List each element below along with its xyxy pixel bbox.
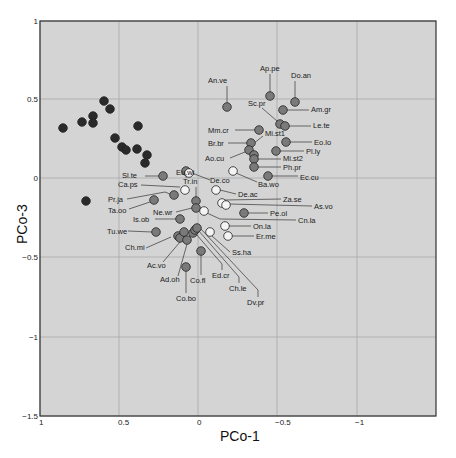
point-label: Ad.oh: [160, 275, 180, 284]
data-point-dark: [89, 119, 98, 128]
data-point-dark: [143, 151, 152, 160]
data-point-mid: [266, 92, 275, 101]
point-label: Mm.cr: [208, 126, 229, 135]
data-point-white: [181, 186, 190, 195]
point-label: Ed.cr: [212, 271, 230, 280]
pco-scatter-chart: 10.50−0.5−1 10.50−0.5−1−1.5 An.veAp.peDo…: [0, 0, 456, 458]
data-point-white: [212, 186, 221, 195]
data-point-mid: [223, 103, 232, 112]
data-point-dark: [141, 159, 150, 168]
point-label: Pe.ol: [270, 209, 287, 218]
point-label: Ec.cu: [300, 173, 319, 182]
point-label: Is.ob: [133, 215, 149, 224]
y-tick-label: 0: [34, 174, 39, 183]
point-label: Ch.le: [229, 284, 247, 293]
point-label: Tr.in: [183, 177, 197, 186]
data-point-mid: [240, 209, 249, 218]
plot-area: [40, 21, 436, 416]
data-point-dark: [78, 118, 87, 127]
point-label: Ss.ha: [232, 248, 252, 257]
point-label: Eu.wi: [176, 168, 195, 177]
point-label: De.co: [210, 176, 230, 185]
x-tick-label: 0: [197, 418, 202, 427]
data-point-dark: [122, 146, 131, 155]
data-point-mid: [183, 236, 192, 245]
point-label: Pl.ly: [306, 147, 320, 156]
x-axis-label: PCo-1: [220, 428, 260, 444]
x-tick-label: −1: [355, 418, 365, 427]
data-point-dark: [100, 97, 109, 106]
point-label: On.la: [253, 222, 272, 231]
y-tick-label: −1.5: [22, 412, 38, 421]
point-label: An.ve: [208, 76, 227, 85]
data-point-mid: [176, 215, 185, 224]
point-label: As.vo: [314, 202, 333, 211]
data-point-white: [206, 228, 215, 237]
point-label: Eo.lo: [314, 138, 331, 147]
point-label: Am.gr: [311, 105, 332, 114]
data-point-white: [200, 207, 209, 216]
data-point-mid: [250, 163, 259, 172]
point-label: Tu.we: [107, 227, 127, 236]
data-point-dark: [111, 134, 120, 143]
point-label: Dv.pr: [247, 298, 265, 307]
data-point-white: [224, 232, 233, 241]
y-tick-label: −0.5: [22, 253, 38, 262]
data-point-dark: [134, 122, 143, 131]
data-point-mid: [159, 172, 168, 181]
y-axis-label: PCo-3: [14, 204, 30, 244]
data-point-mid: [182, 263, 191, 272]
point-label: Sl.te: [122, 171, 137, 180]
data-point-white: [221, 222, 230, 231]
point-label: Ac.vo: [147, 261, 166, 270]
point-label: Co.fl: [190, 276, 206, 285]
data-point-mid: [255, 126, 264, 135]
point-label: Le.te: [313, 121, 330, 130]
x-tick-label: −0.5: [275, 418, 291, 427]
y-tick-label: −1: [29, 333, 39, 342]
data-point-mid: [180, 228, 189, 237]
point-label: Co.bo: [176, 294, 196, 303]
point-label: Br.br: [208, 139, 224, 148]
data-point-mid: [152, 228, 161, 237]
x-axis-ticks: 10.50−0.5−1: [39, 418, 365, 427]
point-label: Mi.st2: [283, 154, 303, 163]
data-point-mid: [192, 204, 201, 213]
data-point-mid: [272, 147, 281, 156]
point-label: Ne.wr: [153, 208, 173, 217]
data-point-mid: [197, 247, 206, 256]
data-point-mid: [193, 224, 202, 233]
point-label: Za.se: [283, 195, 302, 204]
y-tick-label: 0.5: [27, 95, 39, 104]
point-label: Pr.ja: [108, 195, 124, 204]
point-label: Do.an: [291, 71, 311, 80]
data-point-mid: [150, 196, 159, 205]
point-label: Mi.st1: [265, 129, 285, 138]
data-point-dark: [59, 124, 68, 133]
x-tick-label: 1: [39, 418, 44, 427]
data-point-mid: [170, 191, 179, 200]
data-point-dark: [133, 145, 142, 154]
data-point-white: [222, 201, 231, 210]
point-label: Ta.oo: [108, 206, 126, 215]
point-label: Ph.pr: [283, 163, 301, 172]
data-point-mid: [279, 106, 288, 115]
point-label: Ao.cu: [205, 154, 224, 163]
point-label: Cn.la: [298, 216, 316, 225]
data-point-mid: [250, 155, 259, 164]
point-label: Ca.ps: [118, 180, 138, 189]
point-label: Sc.pr: [248, 99, 266, 108]
point-label: Ap.pe: [260, 64, 280, 73]
y-tick-label: 1: [34, 17, 39, 26]
data-point-white: [229, 167, 238, 176]
data-point-mid: [291, 98, 300, 107]
data-point-dark: [82, 197, 91, 206]
x-tick-label: 0.5: [118, 418, 130, 427]
data-point-mid: [264, 172, 273, 181]
point-label: De.ac: [238, 190, 258, 199]
point-label: Ch.mi: [125, 243, 145, 252]
data-point-dark: [106, 105, 115, 114]
point-label: Ba.wo: [258, 180, 279, 189]
data-point-mid: [282, 138, 291, 147]
point-label: Er.me: [256, 232, 276, 241]
